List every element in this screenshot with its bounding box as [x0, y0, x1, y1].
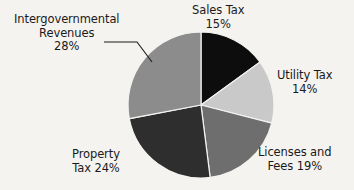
slice-label-utility-tax: Utility Tax 14% [277, 69, 332, 96]
slice-label-intergovernmental-revenues-value: 28% [14, 40, 119, 54]
slice-label-property-tax-name: Property [72, 148, 120, 162]
pie-chart: Sales Tax 15% Utility Tax 14% Licenses a… [0, 0, 354, 190]
slice-label-property-tax: Property Tax 24% [72, 148, 120, 175]
slice-label-intergovernmental-revenues: Intergovernmental Revenues 28% [14, 13, 119, 54]
slice-label-intergovernmental-revenues-name2: Revenues [14, 27, 119, 41]
slice-label-licenses-and-fees: Licenses and Fees 19% [258, 146, 331, 173]
slice-label-sales-tax-name: Sales Tax [192, 4, 244, 18]
slice-label-licenses-and-fees-value: Fees 19% [258, 160, 331, 174]
slice-label-sales-tax-value: 15% [192, 18, 244, 32]
slice-label-licenses-and-fees-name: Licenses and [258, 146, 331, 160]
slice-label-utility-tax-name: Utility Tax [277, 69, 332, 83]
slice-label-property-tax-value: Tax 24% [72, 162, 120, 176]
pie-slice-group [128, 32, 274, 178]
slice-label-utility-tax-value: 14% [277, 83, 332, 97]
slice-label-sales-tax: Sales Tax 15% [192, 4, 244, 31]
slice-label-intergovernmental-revenues-name: Intergovernmental [14, 13, 119, 27]
